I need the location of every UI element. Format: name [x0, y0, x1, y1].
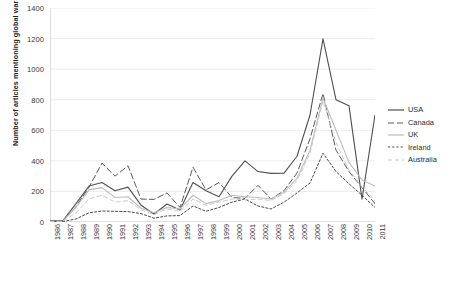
plot-svg [50, 8, 375, 222]
x-tick-label: 1997 [196, 224, 205, 240]
legend-item-usa[interactable]: USA [388, 104, 451, 116]
x-tick-label: 1988 [79, 224, 88, 240]
y-tick-label: 400 [31, 156, 44, 165]
x-tick-label: 1986 [53, 224, 62, 240]
legend-line-icon [388, 156, 404, 164]
legend-item-label: USA [408, 106, 423, 113]
x-tick-label: 2006 [313, 224, 322, 240]
chart-legend: USACanadaUKIrelandAustralia [388, 104, 451, 166]
x-tick-label: 2005 [300, 224, 309, 240]
x-tick-label: 1992 [131, 224, 140, 240]
x-tick-label: 1996 [183, 224, 192, 240]
x-tick-label: 1987 [66, 224, 75, 240]
x-tick-label: 1994 [157, 224, 166, 240]
legend-item-ireland[interactable]: Ireland [388, 141, 451, 153]
x-tick-label: 2003 [274, 224, 283, 240]
legend-item-australia[interactable]: Australia [388, 154, 451, 166]
x-tick-label: 1998 [209, 224, 218, 240]
y-tick-label: 600 [31, 126, 44, 135]
legend-item-label: Australia [408, 156, 437, 163]
plot-area [50, 8, 375, 222]
x-tick-label: 1999 [222, 224, 231, 240]
y-tick-label: 1200 [27, 34, 44, 43]
series-line-usa [50, 39, 375, 221]
legend-item-uk[interactable]: UK [388, 129, 451, 141]
x-tick-label: 2008 [339, 224, 348, 240]
legend-line-icon [388, 131, 404, 139]
series-line-uk [50, 98, 375, 221]
x-tick-label: 1995 [170, 224, 179, 240]
x-tick-label: 2010 [365, 224, 374, 240]
x-tick-label: 2009 [352, 224, 361, 240]
x-tick-label: 1991 [118, 224, 127, 240]
series-line-ireland [50, 153, 375, 221]
legend-item-label: Ireland [408, 144, 431, 151]
legend-item-label: Canada [408, 119, 434, 126]
legend-line-icon [388, 106, 404, 114]
x-tick-label: 2002 [261, 224, 270, 240]
y-tick-label: 200 [31, 187, 44, 196]
x-tick-label: 2001 [248, 224, 257, 240]
legend-line-icon [388, 143, 404, 151]
caption-strip [0, 272, 451, 281]
y-axis-tick-labels: 0200400600800100012001400 [0, 0, 48, 281]
legend-line-icon [388, 119, 404, 127]
x-tick-label: 2004 [287, 224, 296, 240]
y-tick-label: 800 [31, 95, 44, 104]
x-axis-tick-labels: 1986198719881989199019911992199319941995… [50, 224, 375, 270]
y-tick-label: 0 [40, 218, 44, 227]
x-tick-label: 2000 [235, 224, 244, 240]
legend-item-canada[interactable]: Canada [388, 116, 451, 128]
x-tick-label: 2007 [326, 224, 335, 240]
line-chart: Number of articles mentioning global war… [0, 0, 451, 281]
x-tick-label: 2011 [378, 224, 387, 239]
legend-item-label: UK [408, 131, 418, 138]
x-tick-label: 1993 [144, 224, 153, 240]
y-tick-label: 1400 [27, 4, 44, 13]
y-tick-label: 1000 [27, 65, 44, 74]
x-tick-label: 1990 [105, 224, 114, 240]
x-tick-label: 1989 [92, 224, 101, 240]
